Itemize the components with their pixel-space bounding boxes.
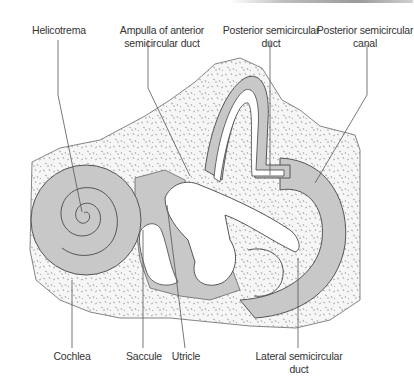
label-ampulla-line1: Ampulla of anterior: [112, 24, 212, 37]
label-saccule: Saccule: [122, 350, 166, 363]
label-cochlea-text: Cochlea: [50, 350, 94, 363]
label-posterior-canal: Posterior semicircular canal: [316, 24, 414, 50]
label-lateral-duct-line1: Lateral semicircular: [252, 350, 346, 363]
label-posterior-canal-line1: Posterior semicircular: [316, 24, 414, 37]
label-cochlea: Cochlea: [50, 350, 94, 363]
label-lateral-duct-line2: duct: [252, 363, 346, 376]
cochlea: [31, 165, 141, 275]
label-lateral-duct: Lateral semicircular duct: [252, 350, 346, 376]
label-helicotrema: Helicotrema: [28, 24, 90, 37]
label-saccule-text: Saccule: [122, 350, 166, 363]
label-utricle-text: Utricle: [166, 350, 206, 363]
label-posterior-canal-line2: canal: [316, 37, 414, 50]
label-ampulla-anterior: Ampulla of anterior semicircular duct: [112, 24, 212, 50]
label-utricle: Utricle: [166, 350, 206, 363]
label-ampulla-line2: semicircular duct: [112, 37, 212, 50]
label-posterior-duct-line1: Posterior semicircular: [222, 24, 320, 37]
label-posterior-duct-line2: duct: [222, 37, 320, 50]
label-posterior-duct: Posterior semicircular duct: [222, 24, 320, 50]
label-helicotrema-text: Helicotrema: [28, 24, 90, 37]
